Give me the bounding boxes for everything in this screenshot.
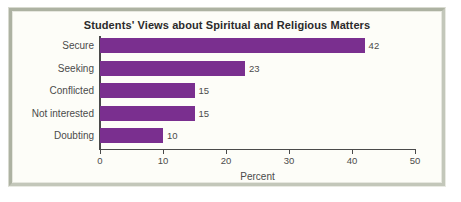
x-axis-title: Percent (100, 171, 415, 182)
bar-value-label: 15 (199, 106, 210, 121)
category-label-seeking: Seeking (58, 61, 94, 76)
x-tick-label: 10 (158, 155, 169, 166)
x-tick-label: 50 (410, 155, 421, 166)
x-tick-label: 0 (97, 155, 102, 166)
x-tick-label: 20 (221, 155, 232, 166)
bar-series: Secure42Seeking23Conflicted15Not interes… (100, 36, 415, 149)
plot-area: Secure42Seeking23Conflicted15Not interes… (100, 36, 415, 150)
x-tick (289, 150, 290, 154)
bar-row: Conflicted15 (100, 81, 415, 104)
bar-not-interested (100, 106, 195, 121)
bar-seeking (100, 61, 245, 76)
chart-plate: Students' Views about Spiritual and Reli… (12, 11, 442, 183)
x-tick (100, 150, 101, 154)
chart-title: Students' Views about Spiritual and Reli… (12, 19, 442, 31)
x-tick-label: 30 (284, 155, 295, 166)
x-tick (415, 150, 416, 154)
bar-row: Secure42 (100, 36, 415, 59)
bar-row: Not interested15 (100, 104, 415, 127)
category-label-doubting: Doubting (54, 128, 94, 143)
x-tick (163, 150, 164, 154)
x-tick (226, 150, 227, 154)
x-tick-label: 40 (347, 155, 358, 166)
category-label-conflicted: Conflicted (50, 83, 94, 98)
bar-secure (100, 38, 365, 53)
x-tick (352, 150, 353, 154)
bar-value-label: 10 (167, 128, 178, 143)
chart-screenshot: Students' Views about Spiritual and Reli… (0, 0, 461, 202)
bar-row: Seeking23 (100, 59, 415, 82)
bar-doubting (100, 128, 163, 143)
bar-value-label: 15 (199, 83, 210, 98)
bar-conflicted (100, 83, 195, 98)
x-axis-line (99, 149, 416, 150)
bar-value-label: 42 (369, 38, 380, 53)
category-label-secure: Secure (62, 38, 94, 53)
category-label-not-interested: Not interested (32, 106, 94, 121)
bar-row: Doubting10 (100, 126, 415, 149)
bar-value-label: 23 (249, 61, 260, 76)
